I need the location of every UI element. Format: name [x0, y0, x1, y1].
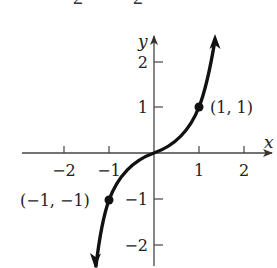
- x-tick-label-neg2: −2: [52, 161, 76, 180]
- x-tick-label-1: 1: [194, 161, 204, 180]
- point-neg1-neg1: [105, 196, 114, 205]
- y-axis-label: y: [137, 31, 148, 51]
- point-label-1-1: (1, 1): [210, 98, 253, 117]
- point-1-1: [195, 103, 204, 112]
- curve-arrow-down-icon: [90, 253, 101, 268]
- point-label-neg1-neg1: (−1, −1): [20, 191, 90, 210]
- y-tick-label-neg1: −1: [124, 190, 148, 209]
- y-tick-label-1: 1: [138, 98, 148, 117]
- y-tick-label-2: 2: [138, 53, 148, 72]
- x-axis-label: x: [264, 132, 274, 152]
- x-tick-label-2: 2: [239, 161, 249, 180]
- graph: x y −2 −1 1 2 2 1 −1 −2 (1, 1) (−1, −1): [0, 0, 277, 268]
- y-tick-label-neg2: −2: [124, 236, 148, 255]
- x-tick-label-neg1: −1: [97, 161, 121, 180]
